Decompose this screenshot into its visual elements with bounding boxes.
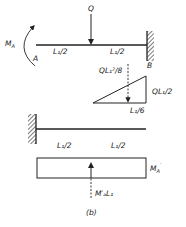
label-b: B	[147, 61, 152, 70]
span-label-top-left: L₁/2	[53, 47, 68, 56]
label-ma-l1: M′ₐL₁	[95, 189, 113, 198]
label-ql-2: QL₁/2	[152, 87, 173, 96]
label-ma: MA	[5, 39, 15, 49]
moment-triangle	[93, 76, 146, 103]
triangular-moment-diagram: QL₁²/8 QL₁/2 L₁/6	[93, 64, 173, 115]
label-a: A	[32, 54, 38, 63]
rectangular-moment-diagram: MA′ M′ₐL₁	[37, 158, 162, 198]
figure-caption: (b)	[86, 208, 97, 217]
span-label-bottom-right: L₁/2	[111, 141, 126, 150]
top-beam-group: B A Q MA L₁/2 L₁/2	[5, 4, 154, 70]
label-q: Q	[88, 4, 94, 13]
fixed-support-left	[28, 114, 36, 144]
span-label-bottom-left: L₁/2	[57, 141, 72, 150]
label-ma-prime: MA′	[150, 162, 162, 174]
label-l-6: L₁/6	[130, 106, 145, 115]
bottom-beam-group: L₁/2 L₁/2	[28, 114, 146, 150]
conjugate-beam-diagram: B A Q MA L₁/2 L₁/2 QL₁²/8 QL₁/2 L₁/6 L₁/…	[0, 0, 186, 227]
fixed-support-right	[147, 31, 154, 61]
span-label-top-right: L₁/2	[110, 47, 125, 56]
label-ql2-8: QL₁²/8	[99, 66, 123, 75]
